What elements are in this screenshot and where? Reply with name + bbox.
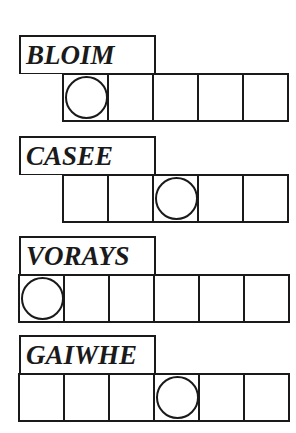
answer-cell-4[interactable] [199, 176, 244, 221]
circled-letter-marker [155, 177, 198, 220]
circled-letter-marker [156, 376, 199, 419]
answer-cell-4[interactable] [199, 75, 244, 120]
answer-cell-4[interactable] [155, 375, 200, 420]
answer-cell-3[interactable] [154, 75, 199, 120]
answer-cell-3[interactable] [110, 375, 155, 420]
answer-cells [18, 274, 290, 323]
circled-letter-marker [21, 277, 64, 320]
answer-cells [62, 174, 289, 223]
circled-letter-marker [65, 76, 108, 119]
answer-cell-1[interactable] [64, 176, 109, 221]
answer-cell-6[interactable] [245, 375, 288, 420]
answer-cell-5[interactable] [244, 176, 287, 221]
answer-cell-1[interactable] [20, 276, 65, 321]
scrambled-word-box: VORAYS [19, 236, 156, 275]
scrambled-word-box: GAIWHE [19, 335, 156, 374]
answer-cell-4[interactable] [155, 276, 200, 321]
answer-cell-5[interactable] [244, 75, 287, 120]
scrambled-word: GAIWHE [26, 338, 137, 372]
scrambled-word-box: BLOIM [19, 35, 156, 74]
answer-cell-2[interactable] [109, 176, 154, 221]
answer-cells [62, 73, 289, 122]
answer-cell-5[interactable] [200, 375, 245, 420]
scrambled-word: CASEE [26, 139, 113, 173]
scrambled-word: BLOIM [26, 38, 115, 72]
answer-cell-5[interactable] [200, 276, 245, 321]
answer-cell-1[interactable] [64, 75, 109, 120]
scrambled-word-box: CASEE [19, 136, 156, 175]
answer-cell-2[interactable] [65, 375, 110, 420]
answer-cell-2[interactable] [65, 276, 110, 321]
scrambled-word: VORAYS [26, 239, 130, 273]
answer-cell-3[interactable] [154, 176, 199, 221]
answer-cell-2[interactable] [109, 75, 154, 120]
answer-cell-1[interactable] [20, 375, 65, 420]
answer-cell-3[interactable] [110, 276, 155, 321]
answer-cell-6[interactable] [245, 276, 288, 321]
answer-cells [18, 373, 290, 422]
